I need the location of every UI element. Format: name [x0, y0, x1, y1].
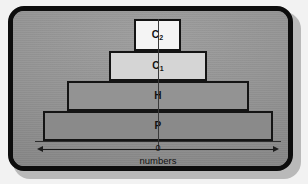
- tier-label-c2-sub: 2: [159, 34, 163, 41]
- axis-arrowhead-right: [273, 146, 279, 152]
- axis-tick-label-zero: 0: [153, 144, 162, 153]
- figure-container: P H C1 C2 0 numbers: [0, 0, 308, 184]
- axis-arrowhead-left: [37, 146, 43, 152]
- tier-label-c1-sub: 1: [160, 65, 164, 72]
- diagram-frame: P H C1 C2 0 numbers: [8, 6, 293, 171]
- zero-reference-line: [158, 19, 159, 149]
- axis-baseline: [35, 141, 281, 142]
- plot-area: P H C1 C2 0 numbers: [13, 11, 288, 166]
- axis-caption: numbers: [140, 156, 177, 166]
